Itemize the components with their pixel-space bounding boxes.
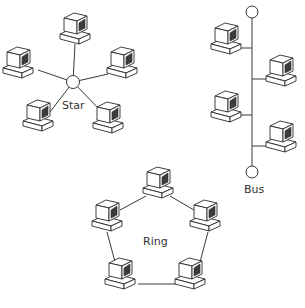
star-topology [3, 13, 137, 133]
ring-link-line [107, 232, 115, 262]
ring-topology [92, 167, 220, 289]
star-label: Star [62, 100, 85, 111]
computer-icon [266, 121, 296, 152]
computer-icon [93, 102, 123, 133]
computer-icon [107, 47, 137, 78]
network-topology-diagram [0, 0, 305, 308]
computer-icon [92, 200, 122, 231]
computer-icon [211, 91, 241, 122]
ring-link-line [170, 196, 194, 210]
bus-terminator-icon [246, 166, 258, 178]
computer-icon [3, 47, 33, 78]
bus-topology [211, 6, 296, 178]
ring-link-line [120, 196, 146, 210]
computer-icon [175, 258, 205, 289]
computer-icon [190, 200, 220, 231]
computer-icon [211, 23, 241, 54]
computer-icon [266, 55, 296, 86]
bus-terminator-icon [246, 6, 258, 18]
ring-label: Ring [143, 236, 168, 247]
bus-label: Bus [244, 184, 264, 195]
ring-link-line [200, 232, 208, 262]
star-hub-icon [67, 76, 80, 89]
computer-icon [105, 258, 135, 289]
computer-icon [23, 100, 53, 131]
computer-icon [60, 13, 90, 44]
computer-icon [143, 167, 173, 198]
